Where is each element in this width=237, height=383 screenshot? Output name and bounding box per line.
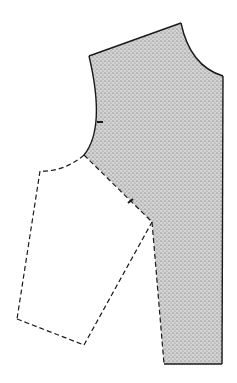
pattern-diagram [0, 0, 237, 383]
sleeve-front-edge [84, 222, 152, 345]
sleeve-hem-edge [17, 319, 84, 345]
sleeve-back-edge [17, 171, 40, 319]
sleeve-cap-curve [40, 155, 84, 171]
bodice-piece [84, 23, 223, 364]
